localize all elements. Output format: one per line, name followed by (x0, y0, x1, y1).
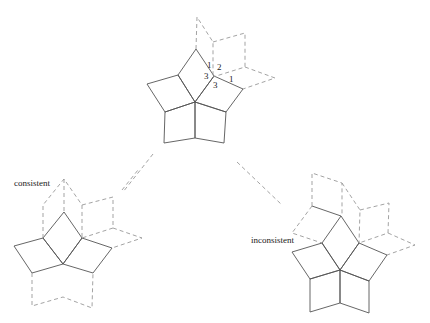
top-dashed-tile-c (243, 67, 275, 89)
inconsistent-tiling: inconsistent (251, 173, 415, 313)
top-rhombus-left (147, 75, 195, 112)
diagram-canvas: 1 2 3 3 1 consistent inconsistent (0, 0, 430, 323)
inconsistent-solid-edge (312, 206, 341, 216)
consistent-rhombus-upper (43, 212, 82, 264)
inconsistent-dashed-right-a (359, 203, 389, 243)
connector-to-consistent (123, 154, 153, 192)
inconsistent-rhombus-upper (322, 216, 359, 270)
top-quad-bottom-right (195, 102, 226, 143)
consistent-dashed-bottom (32, 273, 93, 308)
inconsistent-rhombus-right (340, 243, 387, 281)
inconsistent-dashed-top (312, 173, 342, 216)
inconsistent-quad-bottom-right (340, 270, 369, 313)
top-tiling: 1 2 3 3 1 (147, 17, 275, 143)
inconsistent-rhombus-left (292, 243, 340, 279)
connector-to-inconsistent (237, 162, 282, 205)
consistent-label: consistent (14, 178, 50, 188)
edge-label-1-right: 1 (229, 74, 234, 84)
edge-label-3-bottom: 3 (213, 80, 218, 90)
top-rhombus-upper (178, 49, 214, 102)
top-quad-bottom-left (164, 102, 195, 143)
edge-label-3-left: 3 (204, 71, 209, 81)
consistent-tiling: consistent (14, 170, 142, 308)
consistent-rhombus-left (14, 238, 63, 273)
consistent-dashed-right-a (82, 197, 113, 238)
top-rhombus-right (195, 76, 243, 112)
inconsistent-dashed-right-b (387, 233, 415, 255)
inconsistent-dashed-mid (342, 183, 360, 243)
inconsistent-quad-bottom-left (310, 270, 340, 312)
inconsistent-label: inconsistent (251, 235, 294, 245)
consistent-dashed-tail (122, 170, 138, 190)
consistent-dashed-right-b (112, 228, 142, 248)
edge-label-1-left: 1 (207, 60, 212, 70)
inconsistent-dashed-left (292, 206, 322, 243)
consistent-rhombus-right (63, 238, 112, 273)
edge-label-2: 2 (217, 62, 222, 72)
